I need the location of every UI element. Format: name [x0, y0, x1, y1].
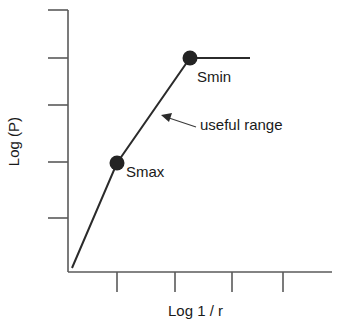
data-point-label-smin: Smin: [197, 69, 231, 84]
y-axis-ticks: [48, 10, 68, 218]
annotation-label-useful-range: useful range: [200, 117, 283, 132]
arrow-head: [161, 113, 172, 122]
chart-figure: Smin Smax useful range Log 1 / r Log (P): [0, 0, 339, 335]
data-point-smax: [110, 156, 125, 171]
x-axis-ticks: [117, 272, 283, 292]
useful-range-arrow: [161, 113, 196, 127]
data-point-label-smax: Smax: [126, 164, 164, 179]
arrow-shaft: [166, 117, 196, 127]
plot-canvas: [0, 0, 339, 335]
y-axis-label: Log (P): [6, 117, 21, 166]
data-point-smin: [183, 51, 198, 66]
x-axis-label: Log 1 / r: [168, 303, 223, 318]
